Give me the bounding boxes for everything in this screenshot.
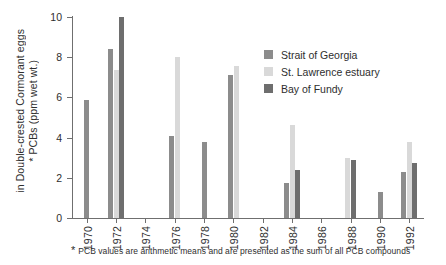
bar bbox=[175, 57, 180, 218]
y-axis-title-line-2: in Double-crested Cormorant eggs bbox=[14, 29, 26, 193]
y-tick-label: 2 bbox=[40, 172, 62, 184]
footnote-text: PCB values are arithmetic means and are … bbox=[78, 246, 410, 256]
bar bbox=[84, 100, 89, 218]
bar bbox=[228, 75, 233, 218]
x-tick-mark bbox=[409, 219, 410, 223]
bar bbox=[234, 66, 239, 218]
bar bbox=[351, 160, 356, 218]
x-tick-mark bbox=[380, 219, 381, 223]
bar bbox=[295, 170, 300, 218]
y-axis-title: in Double-crested Cormorant eggs * PCBs … bbox=[0, 0, 52, 222]
footnote-marker: * bbox=[71, 246, 75, 254]
footnote: * PCB values are arithmetic means and ar… bbox=[71, 246, 410, 256]
x-tick-mark bbox=[351, 219, 352, 223]
legend-item[interactable]: St. Lawrence estuary bbox=[264, 64, 380, 79]
bar bbox=[407, 142, 412, 218]
x-tick-mark bbox=[204, 219, 205, 223]
legend-item[interactable]: Bay of Fundy bbox=[264, 81, 380, 96]
pcb-bar-chart: in Double-crested Cormorant eggs * PCBs … bbox=[0, 0, 446, 265]
y-tick-label: 0 bbox=[40, 212, 62, 224]
legend-label: Strait of Georgia bbox=[281, 49, 357, 61]
bar bbox=[290, 125, 295, 218]
y-tick-label: 4 bbox=[40, 132, 62, 144]
x-axis-line bbox=[72, 218, 424, 219]
legend-label: St. Lawrence estuary bbox=[281, 66, 380, 78]
legend-swatch-icon bbox=[264, 67, 273, 76]
x-tick-mark bbox=[321, 219, 322, 223]
bar bbox=[202, 142, 207, 218]
bar bbox=[169, 136, 174, 218]
x-tick-mark bbox=[292, 219, 293, 223]
y-tick-mark bbox=[67, 218, 72, 219]
bar bbox=[412, 163, 417, 218]
y-tick-label: 10 bbox=[40, 11, 62, 23]
bar bbox=[108, 49, 113, 218]
y-axis-title-line-1: * PCBs (ppm wet wt.) bbox=[27, 60, 39, 162]
legend: Strait of GeorgiaSt. Lawrence estuaryBay… bbox=[264, 47, 380, 98]
y-tick-label: 8 bbox=[40, 51, 62, 63]
bar bbox=[114, 70, 119, 218]
x-tick-mark bbox=[87, 219, 88, 223]
legend-swatch-icon bbox=[264, 84, 273, 93]
bar bbox=[119, 17, 124, 218]
x-tick-mark bbox=[175, 219, 176, 223]
y-tick-label: 6 bbox=[40, 91, 62, 103]
legend-label: Bay of Fundy bbox=[281, 83, 343, 95]
legend-item[interactable]: Strait of Georgia bbox=[264, 47, 380, 62]
x-tick-mark bbox=[116, 219, 117, 223]
legend-swatch-icon bbox=[264, 50, 273, 59]
bar bbox=[401, 172, 406, 218]
bar bbox=[345, 158, 350, 218]
x-tick-mark bbox=[145, 219, 146, 223]
x-tick-mark bbox=[263, 219, 264, 223]
x-tick-mark bbox=[233, 219, 234, 223]
bar bbox=[378, 192, 383, 218]
bar bbox=[284, 183, 289, 218]
